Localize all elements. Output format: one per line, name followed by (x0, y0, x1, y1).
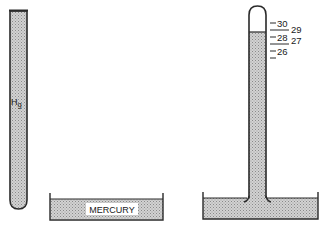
scale-label-28: 28 (277, 32, 288, 43)
scale-label-30: 30 (277, 18, 288, 29)
right-inverted-tube (244, 6, 271, 204)
scale-label-26: 26 (277, 46, 288, 57)
mercury-label: MERCURY (89, 205, 134, 215)
left-tube-full-of-mercury (9, 11, 28, 210)
scale-label-29: 29 (291, 24, 302, 35)
barometer-diagram: Hg MERCURY 30 28 26 29 27 (0, 0, 324, 227)
scale-label-27: 27 (291, 35, 302, 46)
